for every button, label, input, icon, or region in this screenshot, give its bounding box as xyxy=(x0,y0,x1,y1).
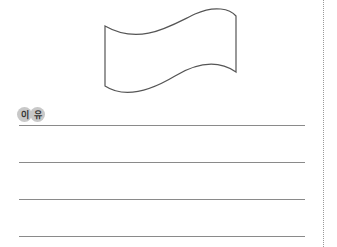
answer-line-3[interactable] xyxy=(19,199,305,200)
answer-line-4[interactable] xyxy=(19,236,305,237)
label-char-2: 유 xyxy=(30,107,45,122)
answer-line-1[interactable] xyxy=(19,125,305,126)
reason-label: 이 유 xyxy=(17,107,43,122)
answer-line-2[interactable] xyxy=(19,162,305,163)
page-divider xyxy=(323,0,324,247)
flag-icon xyxy=(100,6,240,98)
